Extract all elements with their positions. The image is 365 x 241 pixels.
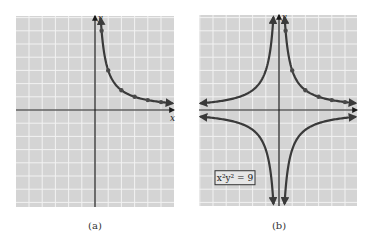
data-point <box>303 88 307 92</box>
data-point <box>119 88 123 92</box>
data-point <box>343 100 347 104</box>
data-point <box>316 95 320 99</box>
panel-label-b: (b) <box>272 220 286 231</box>
data-point <box>132 95 136 99</box>
data-point <box>159 100 163 104</box>
data-point <box>330 98 334 102</box>
figure-canvas: xy yx²y² = 9 <box>0 0 365 241</box>
panel-label-a: (a) <box>88 220 102 231</box>
data-point <box>146 98 150 102</box>
graph-panel-a: xy <box>16 13 175 207</box>
graph-panel-b: yx²y² = 9 <box>199 12 357 206</box>
data-point <box>106 68 110 72</box>
data-point <box>283 29 287 33</box>
data-point <box>99 29 103 33</box>
x-axis-label: x <box>170 113 175 123</box>
equation-label: x²y² = 9 <box>217 173 254 183</box>
data-point <box>290 68 294 72</box>
